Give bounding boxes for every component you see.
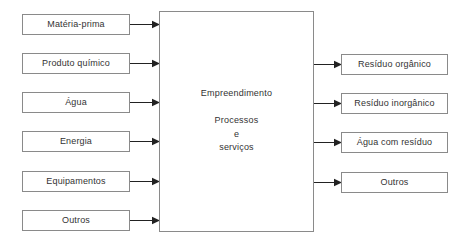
arrow-output-outros [314, 178, 342, 187]
diagram-canvas: Matéria-prima Produto químico Água Energ… [0, 0, 473, 244]
output-label: Resíduo orgânico [358, 59, 431, 69]
central-subtitle: Processos e serviços [215, 114, 259, 155]
arrow-input-agua [130, 98, 160, 107]
input-box-produto-quimico[interactable]: Produto químico [22, 53, 130, 74]
central-process-box[interactable]: Empreendimento Processos e serviços [159, 11, 314, 232]
arrow-input-equipamentos [130, 177, 160, 186]
central-subtitle-line-3: serviços [215, 141, 259, 155]
output-box-residuo-organico[interactable]: Resíduo orgânico [341, 54, 448, 75]
input-label: Produto químico [42, 58, 110, 68]
input-label: Equipamentos [46, 176, 105, 186]
output-box-agua-com-residuo[interactable]: Água com resíduo [341, 132, 448, 153]
output-box-outros[interactable]: Outros [341, 172, 448, 193]
arrow-input-outros [130, 216, 160, 225]
central-subtitle-line-1: Processos [215, 114, 259, 128]
input-label: Água [65, 97, 87, 107]
arrow-input-energia [130, 137, 160, 146]
input-label: Outros [62, 215, 90, 225]
input-box-agua[interactable]: Água [22, 92, 130, 113]
output-label: Água com resíduo [357, 137, 432, 147]
input-label: Energia [60, 136, 92, 146]
input-box-outros[interactable]: Outros [22, 210, 130, 231]
arrow-output-residuo-organico [314, 60, 342, 69]
central-subtitle-line-2: e [215, 128, 259, 142]
arrow-output-agua-com-residuo [314, 138, 342, 147]
input-box-equipamentos[interactable]: Equipamentos [22, 171, 130, 192]
output-box-residuo-inorganico[interactable]: Resíduo inorgânico [341, 93, 448, 114]
central-title: Empreendimento [201, 88, 272, 98]
input-box-energia[interactable]: Energia [22, 131, 130, 152]
input-box-materia-prima[interactable]: Matéria-prima [22, 14, 130, 35]
input-label: Matéria-prima [47, 19, 104, 29]
arrow-input-produto-quimico [130, 59, 160, 68]
arrow-input-materia-prima [130, 20, 160, 29]
output-label: Outros [381, 177, 409, 187]
output-label: Resíduo inorgânico [354, 98, 434, 108]
arrow-output-residuo-inorganico [314, 99, 342, 108]
